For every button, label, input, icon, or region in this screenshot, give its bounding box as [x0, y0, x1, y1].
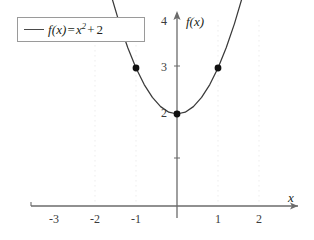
chart-figure: f(x)=x2+2 f(x) x -3-2-112234 [0, 0, 314, 240]
legend-constant: 2 [96, 22, 105, 37]
x-axis [31, 202, 298, 209]
y-tick-label: 4 [149, 14, 167, 29]
chart-legend: f(x)=x2+2 [17, 17, 145, 42]
x-axis-label: x [288, 190, 294, 206]
data-point-vertex [174, 111, 181, 118]
y-tick-label: 2 [149, 106, 167, 121]
legend-fn-arg: (x) [52, 22, 67, 37]
legend-entry-label: f(x)=x2+2 [48, 22, 104, 38]
x-tick-label: -2 [81, 212, 109, 227]
y-axis-label: f(x) [186, 14, 204, 30]
x-tick-label: -3 [40, 212, 68, 227]
x-tick-label: 2 [245, 212, 273, 227]
legend-plus: + [86, 22, 95, 37]
legend-equals: = [66, 22, 75, 37]
data-point-left [133, 65, 140, 72]
x-tick-label: 1 [204, 212, 232, 227]
y-tick-label: 3 [149, 60, 167, 75]
data-point-right [215, 65, 222, 72]
x-tick-label: -1 [122, 212, 150, 227]
legend-line-swatch-icon [24, 29, 44, 30]
